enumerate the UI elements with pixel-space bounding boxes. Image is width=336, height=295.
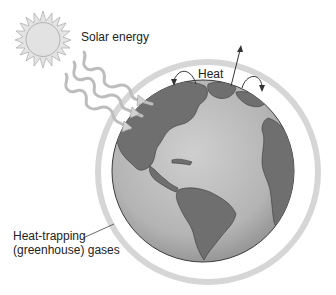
greenhouse-gases-label: Heat-trapping (greenhouse) gases: [13, 229, 120, 257]
earth-globe-icon: [112, 80, 299, 272]
sun-icon: [15, 11, 71, 68]
solar-energy-label: Solar energy: [81, 30, 149, 44]
heat-label: Heat: [198, 67, 223, 81]
heat-arrow-right-icon: [242, 76, 262, 88]
greenhouse-gases-label-line1: Heat-trapping: [13, 229, 120, 243]
greenhouse-gases-label-line2: (greenhouse) gases: [13, 243, 120, 257]
